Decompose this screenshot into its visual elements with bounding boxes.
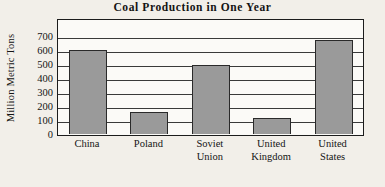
bar-china (69, 50, 107, 134)
y-tick-label: 500 (18, 60, 53, 70)
plot-area (57, 19, 364, 136)
x-axis-category-labels: ChinaPolandSovietUnionUnitedKingdomUnite… (57, 138, 364, 184)
x-label-united-states: UnitedStates (293, 138, 373, 163)
bar-united-kingdom (253, 118, 291, 134)
y-tick-label: 300 (18, 88, 53, 98)
y-axis-title-container: Million Metric Tons (2, 19, 18, 136)
y-tick-label: 600 (18, 46, 53, 56)
bar-chart: Coal Production in One Year Million Metr… (0, 0, 385, 187)
y-tick-label: 700 (18, 32, 53, 42)
bar-soviet-union (192, 65, 230, 134)
y-axis-title: Million Metric Tons (5, 33, 16, 122)
bar-united-states (315, 40, 353, 135)
x-label-line: States (293, 151, 373, 164)
chart-title: Coal Production in One Year (0, 1, 385, 13)
x-label-line: United (293, 138, 373, 151)
bar-series (58, 20, 363, 135)
y-tick-label: 400 (18, 74, 53, 84)
y-tick-label: 200 (18, 102, 53, 112)
bar-poland (130, 112, 168, 134)
y-axis-tick-labels: 7006005004003002001000 (18, 19, 55, 136)
y-tick-label: 100 (18, 116, 53, 126)
